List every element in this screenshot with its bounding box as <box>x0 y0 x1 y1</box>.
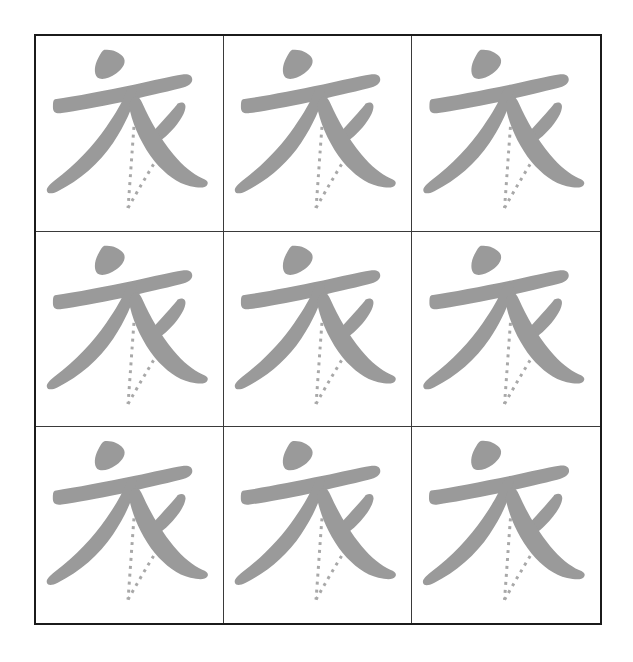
stroke-na-long-right-sweep <box>317 97 395 188</box>
solid-strokes <box>235 441 396 585</box>
solid-strokes <box>423 50 584 194</box>
grid-cell[interactable]: 衣 <box>224 427 412 623</box>
guide-stroke-pie-vertical <box>505 323 511 404</box>
grid-cell[interactable]: 衣 <box>224 36 412 232</box>
character-glyph-yi <box>412 427 600 623</box>
grid-cell[interactable]: 衣 <box>36 36 224 232</box>
character-glyph-yi <box>412 232 600 427</box>
character-glyph-yi <box>36 427 223 623</box>
guide-stroke-pie-vertical <box>505 127 511 208</box>
character-glyph-yi <box>36 36 223 231</box>
solid-strokes <box>47 245 208 389</box>
stroke-na-long-right-sweep <box>317 488 396 579</box>
stroke-dian-dot <box>471 245 501 274</box>
character-glyph-yi <box>36 232 223 427</box>
character-glyph-yi <box>224 36 411 231</box>
stroke-na-long-right-sweep <box>129 97 207 188</box>
character-glyph-yi <box>224 232 411 427</box>
grid-cell[interactable]: 衣 <box>36 232 224 428</box>
guide-stroke-pie-vertical <box>316 323 322 404</box>
stroke-dian-dot <box>95 50 125 79</box>
stroke-na-long-right-sweep <box>506 97 584 188</box>
stroke-dian-dot <box>95 441 125 470</box>
stroke-dian-dot <box>471 50 501 79</box>
guide-stroke-pie-vertical <box>316 127 322 208</box>
character-practice-grid: 衣 衣 <box>34 34 602 625</box>
guide-stroke-pie-vertical <box>505 519 511 600</box>
grid-cell[interactable]: 衣 <box>412 427 600 623</box>
practice-sheet: 衣 衣 <box>0 0 633 662</box>
grid-cell[interactable]: 衣 <box>412 232 600 428</box>
stroke-dian-dot <box>283 245 313 274</box>
stroke-dian-dot <box>471 441 501 470</box>
stroke-dian-dot <box>283 50 313 79</box>
solid-strokes <box>47 50 208 194</box>
stroke-na-long-right-sweep <box>129 292 207 383</box>
stroke-na-long-right-sweep <box>506 292 584 383</box>
solid-strokes <box>235 245 396 389</box>
grid-cell[interactable]: 衣 <box>412 36 600 232</box>
stroke-na-long-right-sweep <box>129 488 208 579</box>
grid-cell[interactable]: 衣 <box>36 427 224 623</box>
stroke-na-long-right-sweep <box>506 488 585 580</box>
character-glyph-yi <box>224 427 411 623</box>
guide-stroke-pie-vertical <box>128 323 134 404</box>
solid-strokes <box>423 441 585 585</box>
solid-strokes <box>235 50 396 194</box>
solid-strokes <box>423 245 584 389</box>
grid-cell[interactable]: 衣 <box>224 232 412 428</box>
solid-strokes <box>47 441 208 585</box>
guide-stroke-pie-vertical <box>128 519 134 600</box>
guide-stroke-pie-vertical <box>316 519 322 600</box>
guide-stroke-pie-vertical <box>128 127 134 208</box>
stroke-dian-dot <box>95 245 125 274</box>
character-glyph-yi <box>412 36 600 231</box>
stroke-dian-dot <box>283 441 313 470</box>
stroke-na-long-right-sweep <box>317 292 395 383</box>
